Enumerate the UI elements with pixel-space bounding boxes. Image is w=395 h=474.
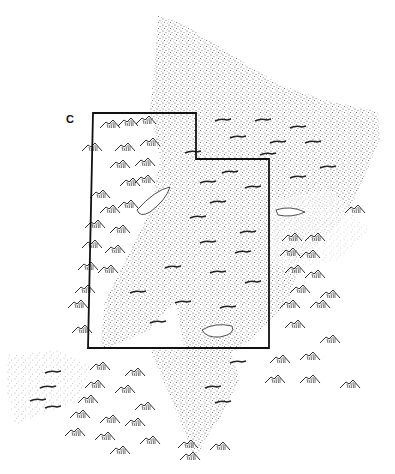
eastern-fade-stipple	[268, 190, 370, 270]
panel-label: C	[66, 113, 74, 125]
southern-stipple-tongue	[150, 350, 240, 460]
relief-map	[0, 0, 395, 474]
northern-plateau-stipple	[100, 15, 380, 380]
southwest-stipple-patch	[6, 350, 90, 425]
stippled-regions	[6, 15, 380, 460]
